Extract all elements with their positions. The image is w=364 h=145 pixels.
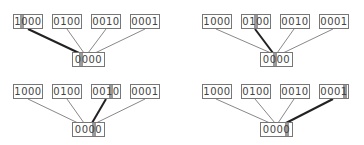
node-0001: 0001 xyxy=(130,14,160,29)
node-1000: 1000 xyxy=(13,14,43,29)
node-0100: 0100 xyxy=(241,84,271,99)
panel-bit-4: 1000 0100 0010 0001 0000 xyxy=(188,70,364,142)
node-0100: 0100 xyxy=(52,14,82,29)
panel-bit-2: 1000 0100 0010 0001 0000 xyxy=(188,0,364,72)
panel-bit-3: 1000 0100 0010 0001 0000 xyxy=(0,70,182,142)
node-1000: 1000 xyxy=(13,84,43,99)
node-0001: 0001 xyxy=(319,14,349,29)
node-0010: 0010 xyxy=(91,84,121,99)
node-0001: 0001 xyxy=(319,84,349,99)
node-0010: 0010 xyxy=(280,14,310,29)
node-0010: 0010 xyxy=(280,84,310,99)
node-0000: 0000 xyxy=(260,52,293,67)
node-0100: 0100 xyxy=(52,84,82,99)
node-1000: 1000 xyxy=(202,84,232,99)
node-0100: 0100 xyxy=(241,14,271,29)
node-0000: 0000 xyxy=(260,122,293,137)
node-0000: 0000 xyxy=(72,122,105,137)
node-0000: 0000 xyxy=(72,52,105,67)
panel-bit-1: 1000 0100 0010 0001 0000 xyxy=(0,0,182,72)
node-1000: 1000 xyxy=(202,14,232,29)
node-0001: 0001 xyxy=(130,84,160,99)
node-0010: 0010 xyxy=(91,14,121,29)
